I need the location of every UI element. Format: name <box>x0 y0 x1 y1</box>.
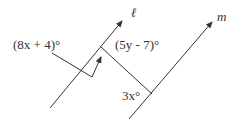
geometry-diagram: ℓ m (8x + 4)° (5y - 7)° 3x° <box>0 0 236 127</box>
line-l-label: ℓ <box>131 6 136 19</box>
angle-label-left: (8x + 4)° <box>13 38 60 51</box>
angle-label-bottom: 3x° <box>122 89 140 102</box>
line-m-label: m <box>217 10 226 23</box>
transversal <box>101 47 152 94</box>
diagram-canvas <box>0 0 236 127</box>
angle-leader-arrow <box>92 57 101 77</box>
line-l <box>50 21 122 108</box>
angle-label-top: (5y - 7)° <box>115 38 159 51</box>
